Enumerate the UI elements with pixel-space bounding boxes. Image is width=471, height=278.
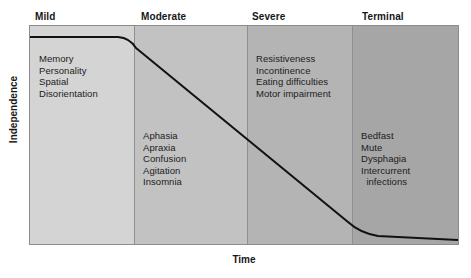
stage-header-mild: Mild <box>35 11 55 23</box>
symptom-list-severe: Resistiveness Incontinence Eating diffic… <box>256 53 331 99</box>
stage-header-moderate: Moderate <box>141 11 186 23</box>
x-axis-title: Time <box>29 254 459 265</box>
symptom-list-moderate: Aphasia Apraxia Confusion Agitation Inso… <box>143 130 186 188</box>
symptom-list-terminal: Bedfast Mute Dysphagia Intercurrent infe… <box>361 130 410 188</box>
plot-area: Memory Personality Spatial Disorientatio… <box>29 25 459 245</box>
alzheimer-stage-progression-chart: Mild Moderate Severe Terminal Memory Per… <box>0 0 471 278</box>
symptom-list-mild: Memory Personality Spatial Disorientatio… <box>39 53 98 99</box>
y-axis-title: Independence <box>8 64 19 156</box>
stage-header-severe: Severe <box>252 11 285 23</box>
stage-header-terminal: Terminal <box>362 11 404 23</box>
